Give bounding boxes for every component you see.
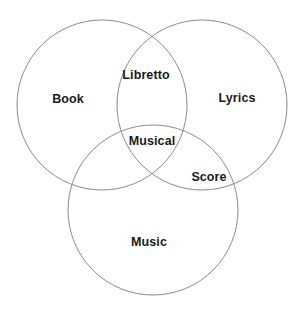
- venn-label-music: Music: [131, 236, 167, 249]
- venn-diagram-figure: Book Lyrics Libretto Musical Score Music: [0, 0, 304, 311]
- venn-circle-book: [17, 20, 187, 190]
- venn-label-score: Score: [191, 171, 226, 184]
- venn-circle-music: [68, 125, 238, 295]
- venn-label-musical: Musical: [129, 135, 176, 148]
- venn-circles-canvas: [0, 0, 304, 311]
- venn-label-libretto: Libretto: [122, 69, 169, 82]
- venn-label-book: Book: [52, 93, 84, 106]
- venn-circle-lyrics: [117, 20, 287, 190]
- venn-label-lyrics: Lyrics: [219, 92, 256, 105]
